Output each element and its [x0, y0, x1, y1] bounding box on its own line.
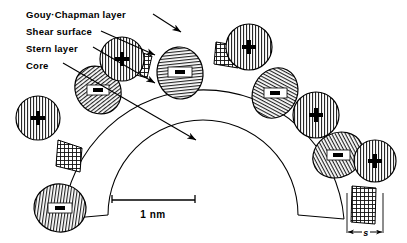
- label-gouy-chapman-layer: Gouy·Chapman layer: [26, 9, 126, 20]
- core-surface-arc: [108, 120, 298, 215]
- scale-bar: [112, 195, 195, 203]
- cation: [293, 92, 339, 138]
- hydration-patch: [351, 186, 376, 224]
- anion-group: [31, 45, 371, 236]
- anion: [154, 45, 205, 102]
- label-shear-surface: Shear surface: [26, 26, 92, 37]
- label-core: Core: [26, 60, 49, 71]
- leader-gouy-chapman: [153, 14, 181, 32]
- cation: [226, 24, 272, 70]
- hydration-patch: [56, 140, 82, 172]
- cation: [354, 140, 396, 182]
- label-stern-layer: Stern layer: [26, 43, 78, 54]
- cation: [100, 37, 144, 81]
- scale-bar-label: 1 nm: [140, 209, 166, 220]
- cation-free-bulk: [16, 96, 60, 140]
- stern-thickness-label: s: [363, 228, 368, 238]
- anion: [31, 181, 89, 236]
- double-layer-diagram: Gouy·Chapman layer Shear surface Stern l…: [0, 0, 407, 243]
- diagram-canvas: Gouy·Chapman layer Shear surface Stern l…: [0, 0, 407, 243]
